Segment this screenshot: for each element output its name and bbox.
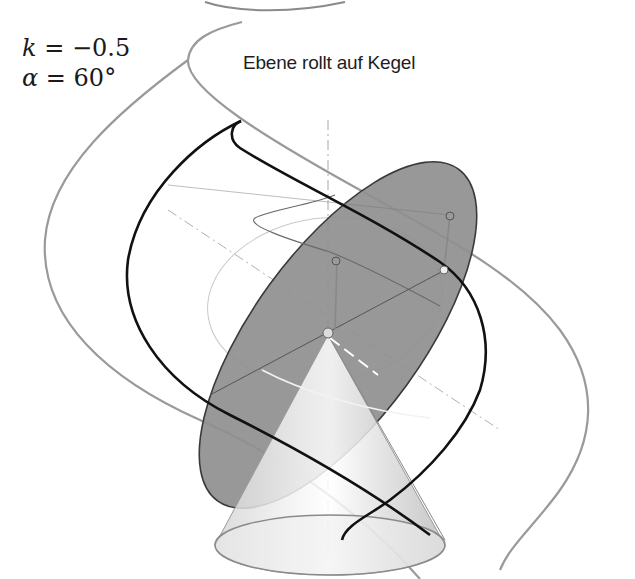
intersection-point-right [440, 266, 448, 274]
k-symbol: k [22, 34, 37, 62]
figure-title: Ebene rollt auf Kegel [243, 52, 415, 74]
parameter-k: k = −0.5 [22, 34, 130, 62]
alpha-value: = 60° [46, 64, 116, 92]
figure-canvas: k = −0.5 α = 60° Ebene rollt auf Kegel [0, 0, 635, 579]
cone-base-ellipse [215, 515, 445, 575]
k-value: = −0.5 [44, 34, 130, 62]
apex-point [323, 328, 333, 338]
parameter-alpha: α = 60° [22, 64, 116, 92]
alpha-symbol: α [22, 64, 38, 92]
outer-curve-top-arc [205, 2, 345, 10]
upper-point-right [446, 212, 454, 220]
upper-point-left [332, 257, 340, 265]
